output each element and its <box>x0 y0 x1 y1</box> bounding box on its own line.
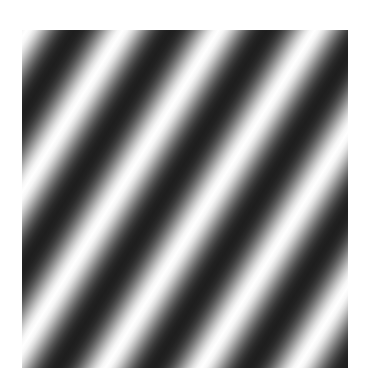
sinusoidal-grating <box>22 30 348 368</box>
grating-fill <box>22 30 348 368</box>
image-canvas <box>0 0 372 391</box>
